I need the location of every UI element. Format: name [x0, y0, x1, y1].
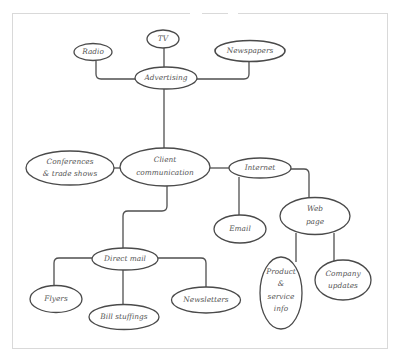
- node-newspapers: Newspapers: [215, 41, 285, 62]
- internet-label: Internet: [244, 163, 276, 172]
- node-bill-stuffings: Bill stuffings: [89, 305, 159, 330]
- edge-advertising-newspapers: [197, 62, 249, 79]
- node-newsletters: Newsletters: [172, 287, 241, 313]
- frame-gap: [228, 10, 238, 16]
- tv-label: TV: [158, 34, 169, 43]
- node-company-updates: Company updates: [315, 260, 371, 300]
- conferences-label-line2: & trade shows: [43, 169, 98, 178]
- directmail-label: Direct mail: [103, 254, 146, 263]
- node-product-service-info: Product & service info: [260, 257, 302, 329]
- node-advertising: Advertising: [135, 67, 197, 89]
- client-label-line1: Client: [154, 155, 177, 164]
- client-label-line2: communication: [136, 168, 194, 177]
- edge-client-directmail: [123, 186, 167, 248]
- company-label-line1: Company: [325, 269, 361, 278]
- node-direct-mail: Direct mail: [92, 248, 158, 270]
- edge-advertising-radio: [96, 61, 136, 79]
- node-radio: Radio: [74, 44, 112, 61]
- product-label-line4: info: [274, 304, 289, 313]
- webpage-label-line2: page: [306, 217, 325, 226]
- node-email: Email: [214, 215, 266, 243]
- company-label-line2: updates: [328, 281, 358, 290]
- edge-directmail-flyers: [54, 258, 92, 286]
- newsletters-label: Newsletters: [182, 295, 229, 304]
- node-web-page: Web page: [280, 198, 350, 235]
- node-flyers: Flyers: [30, 286, 82, 313]
- frame-gap: [190, 10, 202, 16]
- edge-internet-webpage: [291, 169, 309, 198]
- flyers-label: Flyers: [43, 294, 68, 303]
- mind-map-canvas: Radio TV Newspapers Advertising Conferen…: [0, 0, 398, 358]
- conferences-label-line1: Conferences: [47, 157, 94, 166]
- node-conferences: Conferences & trade shows: [26, 151, 114, 185]
- email-label: Email: [228, 224, 251, 233]
- edge-directmail-newsletters: [158, 258, 206, 287]
- node-client-communication: Client communication: [120, 148, 210, 186]
- node-tv: TV: [147, 30, 179, 48]
- advertising-label: Advertising: [143, 73, 187, 82]
- node-internet: Internet: [229, 158, 291, 178]
- webpage-label-line1: Web: [307, 204, 323, 213]
- product-label-line3: service: [268, 292, 295, 301]
- newspapers-label: Newspapers: [226, 46, 274, 55]
- product-label-line1: Product: [265, 267, 296, 276]
- product-label-line2: &: [278, 279, 285, 288]
- radio-label: Radio: [81, 47, 104, 56]
- bill-label: Bill stuffings: [99, 312, 147, 321]
